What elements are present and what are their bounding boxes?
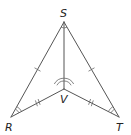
vertex-label-t: T [116, 121, 124, 134]
tick-mark-st [89, 68, 95, 71]
angle-arc-t-inner [111, 109, 115, 113]
geometry-diagram: S V R T [0, 0, 131, 135]
vertex-label-v: V [60, 93, 69, 106]
angle-arc-r-inner [15, 109, 19, 113]
vertex-label-s: S [60, 7, 67, 20]
tick-mark-sr [35, 68, 41, 71]
vertex-label-r: R [5, 121, 13, 134]
